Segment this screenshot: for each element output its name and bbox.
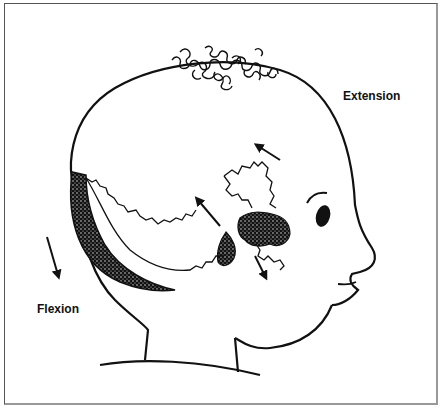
arrow-up-left-icon [258, 146, 280, 160]
temporal-shaded-region [238, 212, 290, 246]
extension-label: Extension [343, 89, 400, 103]
flexion-label: Flexion [37, 302, 79, 316]
arrow-up-left-lower-icon [198, 200, 220, 226]
infant-head-diagram [0, 0, 443, 412]
flexion-arrow-icon [47, 237, 58, 275]
ear-shaded-region [217, 232, 235, 265]
hair-scribble [172, 46, 278, 89]
face-features [307, 193, 356, 285]
occipital-shaded-region [71, 172, 175, 291]
